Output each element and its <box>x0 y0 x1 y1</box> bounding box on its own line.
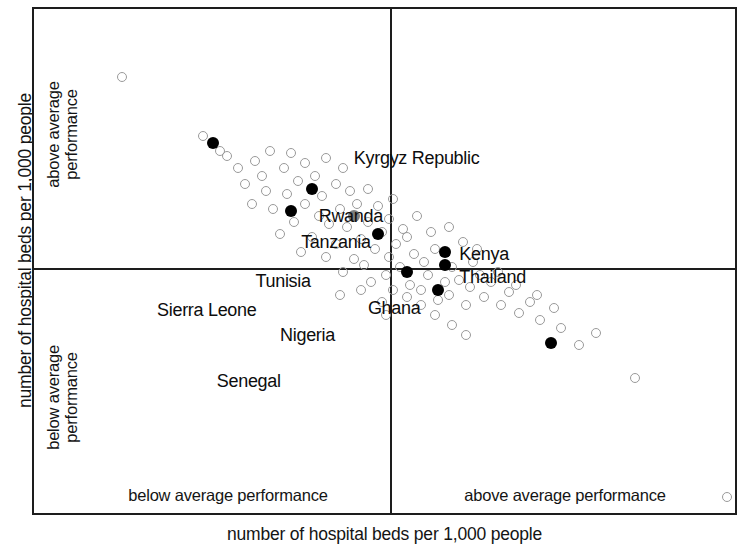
data-point-unlabeled <box>233 163 243 173</box>
data-point-unlabeled <box>317 191 327 201</box>
country-label-tunisia: Tunisia <box>255 271 310 292</box>
country-label-sierra-leone: Sierra Leone <box>157 300 256 321</box>
data-point-unlabeled <box>384 252 394 262</box>
country-label-tanzania: Tanzania <box>301 232 371 253</box>
country-label-thailand: Thailand <box>459 267 526 288</box>
country-label-ghana: Ghana <box>368 298 421 319</box>
data-point-unlabeled <box>257 171 267 181</box>
data-point-unlabeled <box>416 285 426 295</box>
quadrant-label-y-above-line2: performance <box>62 44 80 224</box>
data-point-unlabeled <box>419 257 429 267</box>
data-point-unlabeled <box>496 300 506 310</box>
data-point-unlabeled <box>310 171 320 181</box>
data-point-unlabeled <box>359 260 369 270</box>
data-point-unlabeled <box>345 186 355 196</box>
data-point-unlabeled <box>381 270 391 280</box>
data-point-unlabeled <box>444 222 454 232</box>
country-label-kyrgyz-republic: Kyrgyz Republic <box>354 148 480 169</box>
data-point-unlabeled <box>268 204 278 214</box>
data-point-unlabeled <box>363 184 373 194</box>
data-point-unlabeled <box>282 189 292 199</box>
data-point-unlabeled <box>556 323 566 333</box>
data-point-unlabeled <box>479 292 489 302</box>
vertical-mean-line <box>390 9 392 515</box>
data-point-thailand[interactable] <box>439 246 451 258</box>
data-point-unlabeled <box>412 211 422 221</box>
data-point-unlabeled <box>514 308 524 318</box>
data-point-unlabeled <box>349 254 359 264</box>
data-point-unlabeled <box>409 249 419 259</box>
data-point-unlabeled <box>388 194 398 204</box>
data-point-unlabeled <box>426 227 436 237</box>
data-point-tanzania[interactable] <box>401 266 413 278</box>
data-point-unlabeled <box>405 280 415 290</box>
data-point-unlabeled <box>261 186 271 196</box>
data-point-sierra-leone[interactable] <box>285 205 297 217</box>
country-label-kenya: Kenya <box>459 244 509 265</box>
scatter-quadrant-figure: number of hospital beds per 1,000 people… <box>0 0 737 552</box>
data-point-unlabeled <box>279 163 289 173</box>
data-point-unlabeled <box>321 153 331 163</box>
quadrant-label-y-below: below average performance <box>44 307 81 487</box>
data-point-tunisia[interactable] <box>372 228 384 240</box>
data-point-unlabeled <box>535 315 545 325</box>
data-point-unlabeled <box>300 158 310 168</box>
data-point-unlabeled <box>433 295 443 305</box>
quadrant-label-x-above: above average performance <box>400 486 730 505</box>
data-point-unlabeled <box>293 176 303 186</box>
data-point-unlabeled <box>461 300 471 310</box>
data-point-unlabeled <box>198 131 208 141</box>
country-label-rwanda: Rwanda <box>319 206 383 227</box>
quadrant-label-x-below: below average performance <box>72 486 384 505</box>
data-point-unlabeled <box>591 328 601 338</box>
data-point-unlabeled <box>391 239 401 249</box>
data-point-unlabeled <box>423 270 433 280</box>
data-point-unlabeled <box>247 199 257 209</box>
data-point-unlabeled <box>384 214 394 224</box>
data-point-unlabeled <box>265 146 275 156</box>
plot-area: above average performance below average … <box>32 7 737 515</box>
quadrant-label-y-below-line1: below average <box>44 307 62 487</box>
data-point-unlabeled <box>574 340 584 350</box>
data-point-unlabeled <box>549 303 559 313</box>
data-point-unlabeled <box>630 373 640 383</box>
data-point-unlabeled <box>289 217 299 227</box>
data-point-unlabeled <box>370 244 380 254</box>
data-point-unlabeled <box>430 244 440 254</box>
data-point-unlabeled <box>366 277 376 287</box>
data-point-unlabeled <box>286 148 296 158</box>
data-point-nigeria[interactable] <box>306 183 318 195</box>
data-point-unlabeled <box>240 179 250 189</box>
data-point-unlabeled <box>532 290 542 300</box>
x-axis-title: number of hospital beds per 1,000 people <box>32 524 737 545</box>
data-point-unlabeled <box>338 267 348 277</box>
data-point-unlabeled <box>335 290 345 300</box>
data-point-unlabeled <box>117 72 127 82</box>
country-label-nigeria: Nigeria <box>280 325 335 346</box>
data-point-unlabeled <box>250 156 260 166</box>
data-point-unlabeled <box>444 290 454 300</box>
data-point-unlabeled <box>275 229 285 239</box>
data-point-kenya[interactable] <box>439 259 451 271</box>
country-label-senegal: Senegal <box>217 371 281 392</box>
data-point-unlabeled <box>338 163 348 173</box>
data-point-unlabeled <box>430 310 440 320</box>
quadrant-label-y-below-line2: performance <box>62 307 80 487</box>
data-point-unlabeled <box>461 330 471 340</box>
data-point-rwanda[interactable] <box>432 284 444 296</box>
data-point-unlabeled <box>300 199 310 209</box>
quadrant-label-y-above: above average performance <box>44 44 81 224</box>
quadrant-label-y-above-line1: above average <box>44 44 62 224</box>
data-point-unlabeled <box>388 285 398 295</box>
data-point-unlabeled <box>722 492 732 502</box>
data-point-unlabeled <box>447 320 457 330</box>
data-point-kyrgyz-republic[interactable] <box>545 337 557 349</box>
data-point-unlabeled <box>356 285 366 295</box>
data-point-unlabeled <box>331 179 341 189</box>
data-point-unlabeled <box>321 252 331 262</box>
